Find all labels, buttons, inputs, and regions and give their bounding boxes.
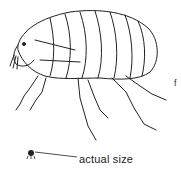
actual-size-caption: actual size <box>79 153 133 165</box>
flea-leg-hind <box>112 78 156 130</box>
flea-head <box>14 45 34 66</box>
flea-leg-middle <box>78 78 96 140</box>
flea-illustration <box>0 0 181 176</box>
caption-leader-line <box>35 152 77 157</box>
stray-mark: f <box>174 78 177 88</box>
flea-body <box>18 11 157 80</box>
actual-size-flea <box>27 150 35 159</box>
flea-leg-front <box>16 76 38 110</box>
